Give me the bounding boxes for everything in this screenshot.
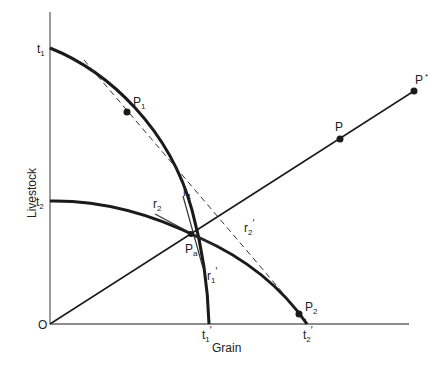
x-axis-label: Grain: [212, 341, 241, 355]
point-p: [337, 136, 344, 143]
point-p1: [124, 109, 131, 116]
label-t2-prime: t2′: [303, 325, 313, 344]
label-r1: r1: [183, 185, 192, 201]
y-axis-label: Livestock: [25, 167, 39, 218]
label-pstar: P*: [415, 72, 428, 87]
label-p1: P1: [133, 95, 146, 111]
production-possibility-diagram: Livestock Grain O t1 t2 t1′ t2′ P1 P2 Pa…: [0, 0, 439, 372]
inner-curve-t2: [50, 201, 307, 324]
origin-label: O: [38, 318, 47, 332]
expansion-ray: [50, 91, 414, 324]
point-pa: [188, 231, 194, 237]
label-t1: t1: [37, 42, 45, 58]
point-p2: [296, 311, 303, 318]
label-p2: P2: [305, 300, 318, 316]
label-t2: t2: [36, 195, 44, 211]
label-r2-prime: r2′: [244, 218, 254, 237]
label-r1-prime: r1′: [207, 266, 217, 285]
label-p: P: [335, 120, 343, 134]
point-pstar: [411, 88, 418, 95]
label-r2: r2: [153, 197, 162, 213]
label-t1-prime: t1′: [202, 325, 212, 344]
